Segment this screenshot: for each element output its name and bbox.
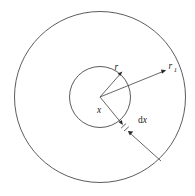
dx-thickness-marks <box>121 124 129 132</box>
radius-r1-arrowhead <box>161 70 166 74</box>
dx-leader-arrow <box>128 131 161 161</box>
label-dx: dx <box>138 115 148 125</box>
radius-x-arrow <box>100 97 123 125</box>
figure-container: r r 1 x dx <box>0 0 195 196</box>
dx-tick-outer <box>124 127 129 131</box>
label-dx-d: dx <box>138 115 148 125</box>
label-dx-x-glyph: x <box>142 115 148 125</box>
radius-r-arrow <box>100 72 122 98</box>
label-r1-subscript: 1 <box>174 66 177 73</box>
label-x: x <box>96 105 102 115</box>
radius-r1-arrow <box>100 70 166 97</box>
label-r: r <box>115 62 119 72</box>
label-r1-base: r <box>169 61 173 71</box>
label-r1: r 1 <box>169 61 178 73</box>
concentric-circles-diagram: r r 1 x dx <box>0 0 195 196</box>
